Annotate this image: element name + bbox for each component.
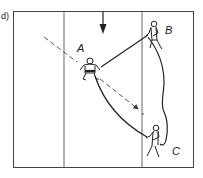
player-label-a: A (77, 42, 84, 54)
player-a-figure-icon (80, 58, 100, 80)
run-path-lower (100, 79, 138, 109)
direction-arrow-icon (100, 12, 107, 35)
player-label-c: C (172, 145, 180, 157)
rope-a-to-b (101, 35, 148, 67)
rope-a-to-c (95, 76, 147, 137)
player-c-figure-icon (146, 125, 159, 157)
run-path-upper (44, 37, 77, 62)
player-label-b: B (165, 24, 172, 36)
